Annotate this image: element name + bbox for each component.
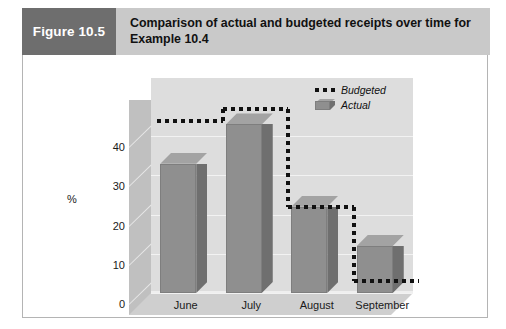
legend-label-budgeted: Budgeted	[341, 84, 386, 96]
bar-swatch-icon	[315, 99, 335, 110]
budgeted-step-segment	[223, 107, 289, 111]
gridline	[151, 293, 413, 294]
y-axis-title: %	[67, 193, 77, 205]
bar	[357, 246, 393, 293]
bar	[226, 124, 262, 293]
figure-title-line-1: Comparison of actual and budgeted receip…	[130, 16, 478, 32]
figure-title-line-2: Example 10.4	[130, 32, 478, 48]
y-axis-tick-label: 0	[85, 298, 125, 310]
bar	[160, 164, 196, 293]
chart-panel: 010203040 % JuneJulyAugustSeptember Time…	[22, 55, 488, 318]
legend-item-budgeted: Budgeted	[315, 82, 386, 97]
budgeted-step-riser	[286, 109, 290, 207]
gridline	[151, 136, 413, 137]
y-axis-tick-label: 40	[85, 141, 125, 153]
figure-number-tag: Figure 10.5	[22, 8, 116, 55]
x-axis-title: Time	[243, 315, 267, 318]
budgeted-step-riser	[352, 207, 356, 281]
chart-legend: Budgeted Actual	[315, 82, 386, 112]
dotted-line-swatch-icon	[315, 88, 335, 92]
budgeted-step-segment	[288, 205, 354, 209]
chart-plot-area: 010203040 % JuneJulyAugustSeptember Time…	[23, 55, 488, 318]
x-axis-tick-label: July	[241, 299, 261, 311]
budgeted-step-riser	[221, 109, 225, 121]
y-axis-ticks: 010203040	[79, 55, 125, 318]
budgeted-step-segment	[354, 279, 420, 283]
figure-header: Figure 10.5 Comparison of actual and bud…	[22, 8, 490, 55]
budgeted-step-segment	[157, 119, 223, 123]
legend-label-actual: Actual	[341, 99, 370, 111]
figure-title: Comparison of actual and budgeted receip…	[116, 8, 490, 55]
x-axis-tick-label: August	[300, 299, 334, 311]
y-axis-tick-label: 10	[85, 259, 125, 271]
bar	[291, 207, 327, 293]
figure-container: Figure 10.5 Comparison of actual and bud…	[22, 8, 490, 320]
legend-item-actual: Actual	[315, 97, 386, 112]
x-axis-tick-label: September	[355, 299, 409, 311]
y-axis-tick-label: 20	[85, 220, 125, 232]
y-axis-tick-label: 30	[85, 180, 125, 192]
x-axis-tick-label: June	[174, 299, 198, 311]
